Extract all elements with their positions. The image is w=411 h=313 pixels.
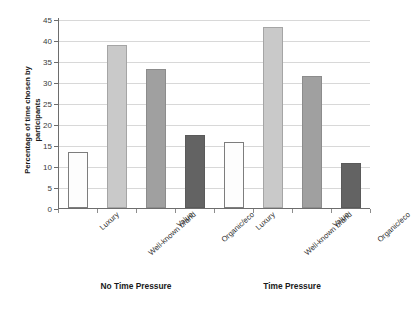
bar	[341, 163, 361, 208]
plot-frame: 051015202530354045	[58, 20, 370, 209]
y-axis-tick-label: 30	[43, 79, 52, 88]
x-axis-category-label: Organic/eco	[219, 210, 255, 244]
y-axis-tick-label: 15	[43, 142, 52, 151]
x-axis-tick-mark	[370, 209, 371, 213]
y-axis-title: Percentage of time chosen by participant…	[23, 25, 43, 215]
y-axis-title-line-2: participants	[33, 25, 43, 215]
x-axis-category-label: Organic/eco	[375, 210, 411, 244]
y-axis-tick-label: 45	[43, 16, 52, 25]
y-axis-tick-label: 35	[43, 58, 52, 67]
x-axis-group-labels: No Time PressureTime Pressure	[58, 281, 370, 297]
x-axis-group-label: No Time Pressure	[100, 281, 171, 291]
bar	[107, 45, 127, 208]
x-axis-category-label: Luxury	[253, 210, 276, 232]
y-axis-title-line-1: Percentage of time chosen by	[23, 25, 33, 215]
plot-area: 051015202530354045	[58, 20, 370, 209]
x-axis-group-label: Time Pressure	[263, 281, 321, 291]
y-axis-tick-label: 25	[43, 100, 52, 109]
bar	[68, 152, 88, 208]
bar	[263, 27, 283, 208]
x-axis-category-label: Luxury	[97, 210, 120, 232]
y-axis-tick-label: 5	[48, 184, 52, 193]
bar	[146, 69, 166, 208]
bar	[302, 76, 322, 208]
y-axis-tick-label: 20	[43, 121, 52, 130]
y-axis-tick-label: 40	[43, 37, 52, 46]
bar	[224, 142, 244, 208]
y-axis-tick-label: 10	[43, 163, 52, 172]
bars-layer	[58, 20, 370, 209]
y-axis-tick-label: 0	[48, 205, 52, 214]
bar	[185, 135, 205, 209]
x-axis-category-labels: LuxuryWell-known brandValueOrganic/ecoLu…	[58, 210, 370, 272]
